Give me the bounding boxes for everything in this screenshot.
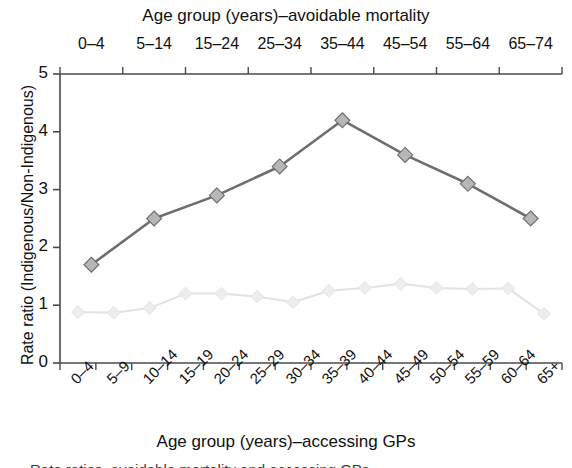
data-point-marker xyxy=(358,281,371,294)
series-line-avoidable-mortality xyxy=(91,120,530,265)
y-tick-label: 0 xyxy=(24,352,48,372)
data-point-marker xyxy=(209,188,224,203)
data-point-marker xyxy=(107,306,120,319)
data-point-marker xyxy=(71,306,84,319)
data-point-marker xyxy=(502,282,515,295)
data-point-marker xyxy=(460,176,475,191)
chart-figure: Age group (years)–avoidable mortality Ra… xyxy=(0,0,572,468)
y-tick-label: 4 xyxy=(24,121,48,141)
caption-fragment: Rate ratios, avoidable mortality and acc… xyxy=(30,461,550,468)
data-point-marker xyxy=(466,283,479,296)
data-point-marker xyxy=(538,307,551,320)
top-axis-title: Age group (years)–avoidable mortality xyxy=(0,6,572,26)
top-tick-label: 65–74 xyxy=(491,35,571,53)
data-point-marker xyxy=(430,281,443,294)
data-point-marker xyxy=(398,147,413,162)
data-point-marker xyxy=(287,296,300,309)
data-point-marker xyxy=(215,287,228,300)
y-tick-label: 2 xyxy=(24,236,48,256)
data-point-marker xyxy=(251,290,264,303)
data-point-marker xyxy=(523,211,538,226)
data-point-marker xyxy=(179,287,192,300)
data-point-marker xyxy=(394,277,407,290)
bottom-axis-title: Age group (years)–accessing GPs xyxy=(0,432,572,452)
data-point-marker xyxy=(322,284,335,297)
y-tick-label: 3 xyxy=(24,179,48,199)
y-tick-label: 1 xyxy=(24,294,48,314)
plot-canvas xyxy=(0,0,572,468)
y-axis-title: Rate ratio (Indigenous/Non-Indigenous) xyxy=(19,45,37,405)
y-tick-label: 5 xyxy=(24,63,48,83)
data-point-marker xyxy=(143,302,156,315)
